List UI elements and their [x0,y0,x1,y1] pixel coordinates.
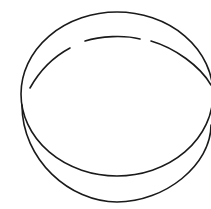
dish-inner-arc-right [151,41,211,85]
petri-dish-figure [0,0,211,209]
petri-dish-drawing [0,0,211,209]
dish-inner-arc-left [30,48,70,88]
dish-inner-arc-middle [85,37,140,41]
